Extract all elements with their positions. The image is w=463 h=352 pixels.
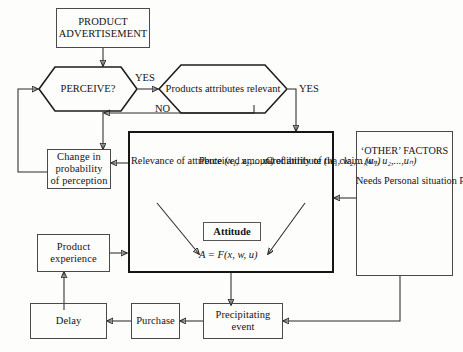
purchase-label: Purchase	[136, 315, 175, 327]
other-factor-item: Product exposure	[459, 175, 463, 186]
attitude-box: Attitude	[203, 222, 261, 241]
other-factors-list: Needs Personal situation Product exposur…	[356, 175, 453, 188]
relevant-decision-hexagon: Products attributes relevant	[158, 64, 288, 114]
wire-relevant-yes-to-main	[288, 89, 296, 131]
other-factor-item: Needs	[356, 175, 381, 186]
precipitating-line1: Precipitating	[216, 309, 271, 321]
other-factors-title: ‘OTHER’ FACTORS	[356, 145, 453, 157]
column-relevance-of-attribute: Relevance of attribute (x₁, x₂,...,xₙ)	[131, 155, 197, 168]
relevant-line2: attributes	[205, 83, 244, 94]
credibility-line1: Credibility of	[266, 155, 322, 166]
precipitating-line2: event	[216, 321, 271, 333]
flowchart-canvas: PRODUCT ADVERTISEMENT PERCEIVE? Products…	[0, 0, 463, 352]
relevant-line1: Products	[166, 83, 203, 94]
change-line1: Change in	[51, 151, 108, 163]
branch-label-yes-left: YES	[135, 72, 155, 84]
purchase-box: Purchase	[131, 303, 180, 339]
delay-box: Delay	[30, 303, 107, 339]
perceive-label: PERCEIVE?	[55, 83, 122, 95]
column-perceived-amount: Perceived amount of attribute (w₁, w₂,..…	[199, 155, 265, 168]
delay-label: Delay	[56, 315, 82, 327]
wire-other-to-precipitating	[283, 276, 400, 321]
perceive-decision-hexagon: PERCEIVE?	[38, 66, 138, 112]
perceived-line1: Perceived	[199, 155, 240, 166]
relevant-line3: relevant	[247, 83, 281, 94]
change-line3: of perception	[51, 175, 108, 187]
product-experience-line1: Product	[50, 241, 96, 253]
change-in-probability-box: Change in probability of perception	[47, 149, 111, 189]
product-experience-box: Product experience	[37, 234, 110, 272]
branch-label-no: NO	[155, 103, 170, 115]
precipitating-event-box: Precipitating event	[203, 303, 283, 339]
relevance-line1: Relevance of	[131, 155, 185, 166]
column-credibility: Credibility of the claim (u₁, u₂,...,uₙ)	[266, 155, 332, 168]
change-line2: probability	[51, 163, 108, 175]
attitude-formula: A = F(x, w, u)	[199, 249, 258, 261]
branch-label-yes-right: YES	[299, 83, 319, 95]
other-factors-title-line1: ‘OTHER’	[361, 145, 401, 156]
product-experience-line2: experience	[50, 253, 96, 265]
other-factors-title-line2: FACTORS	[403, 145, 448, 156]
other-factor-item: Personal situation	[384, 175, 457, 186]
product-advertisement-box: PRODUCT ADVERTISEMENT	[56, 8, 150, 48]
attitude-label: Attitude	[213, 226, 250, 237]
product-advertisement-line1: PRODUCT	[59, 16, 148, 28]
product-advertisement-line2: ADVERTISEMENT	[59, 28, 148, 40]
